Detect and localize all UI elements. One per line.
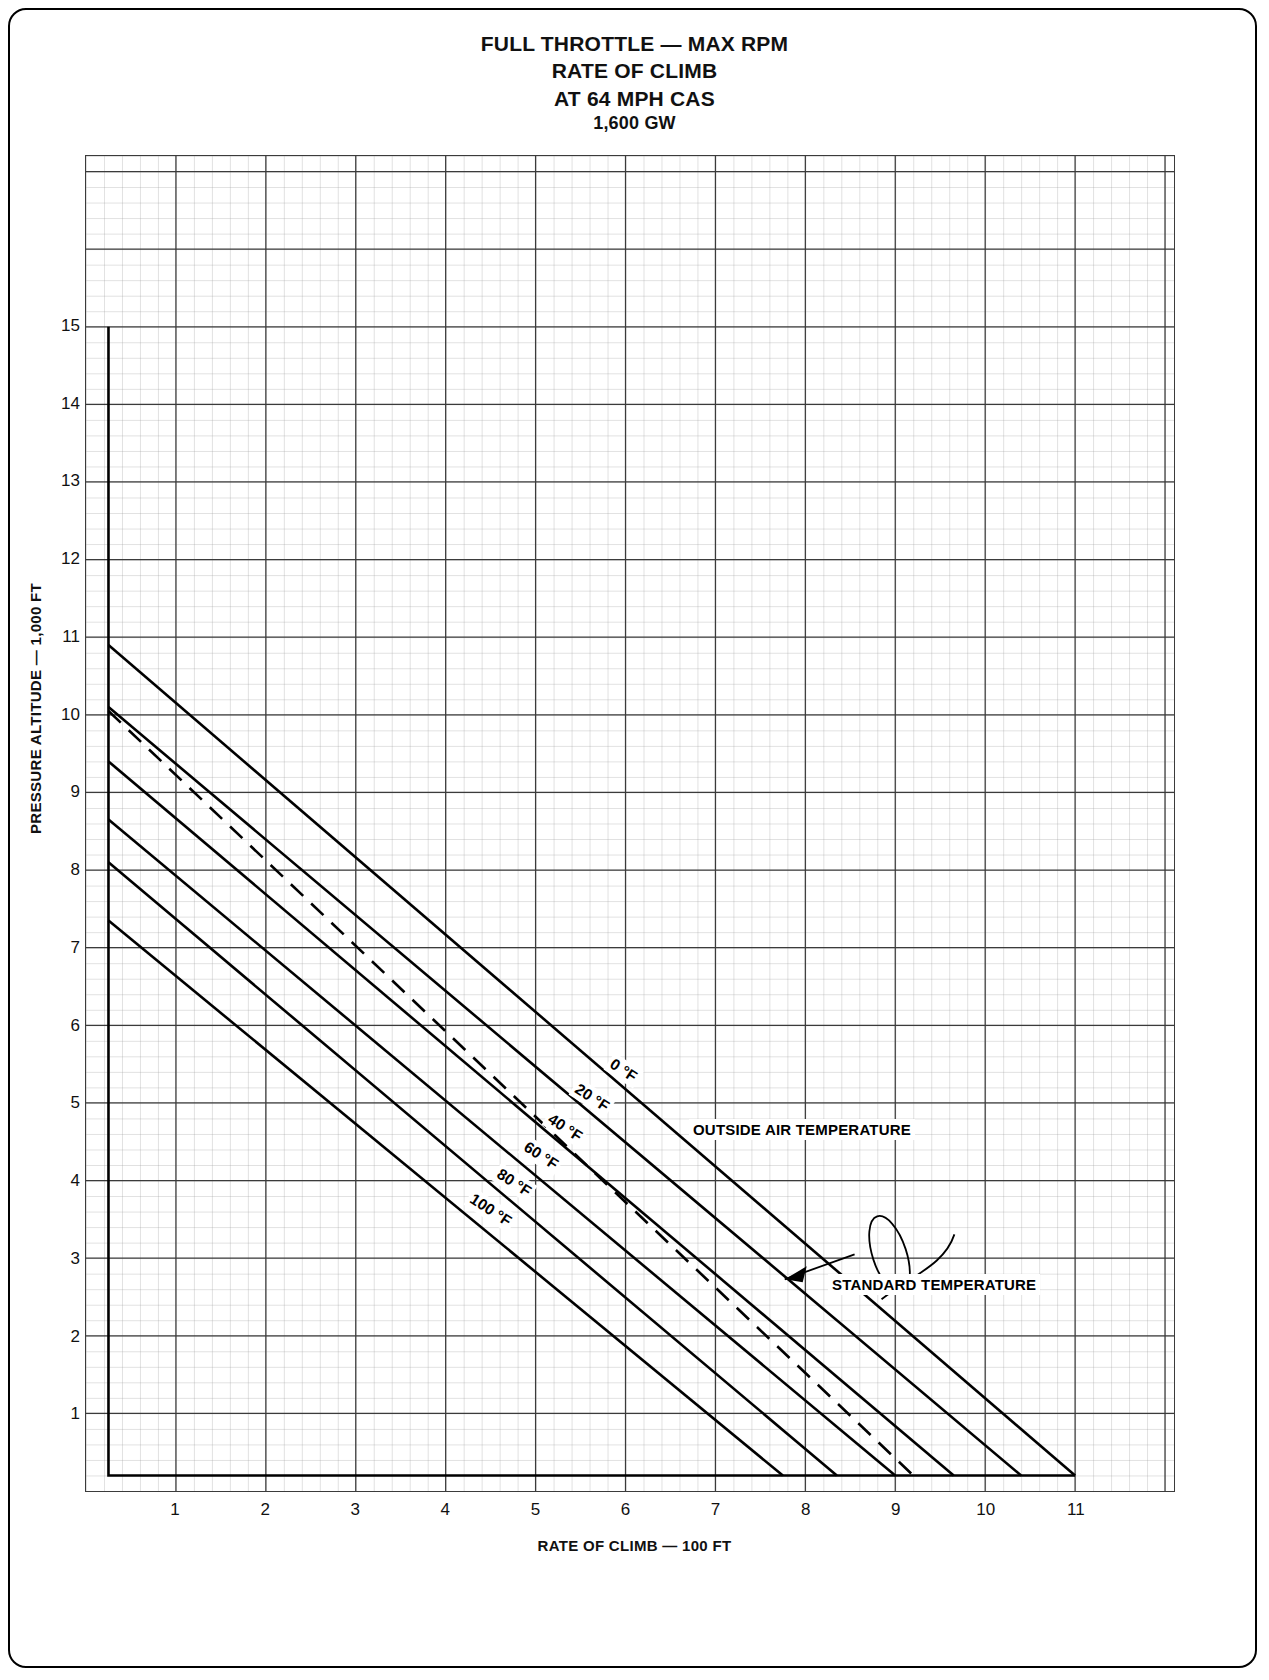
annotation-standard-temperature: STANDARD TEMPERATURE — [828, 1274, 1040, 1295]
y-tick-6: 6 — [46, 1016, 80, 1036]
y-tick-4: 4 — [46, 1171, 80, 1191]
title-line-4-gross-weight: 1,600 GW — [0, 112, 1269, 135]
x-tick-5: 5 — [515, 1500, 555, 1520]
y-tick-2: 2 — [46, 1327, 80, 1347]
x-tick-2: 2 — [245, 1500, 285, 1520]
x-tick-11: 11 — [1056, 1500, 1096, 1520]
x-tick-6: 6 — [605, 1500, 645, 1520]
y-tick-8: 8 — [46, 860, 80, 880]
y-tick-3: 3 — [46, 1249, 80, 1269]
title-line-2: RATE OF CLIMB — [0, 57, 1269, 84]
y-tick-7: 7 — [46, 938, 80, 958]
y-axis-ticks: 123456789101112131415 — [38, 155, 80, 1492]
x-tick-7: 7 — [696, 1500, 736, 1520]
y-tick-12: 12 — [46, 549, 80, 569]
chart-plot-area: 0 °F 20 °F 40 °F 60 °F 80 °F 100 °F OUTS… — [85, 155, 1175, 1492]
y-tick-9: 9 — [46, 782, 80, 802]
y-tick-15: 15 — [46, 316, 80, 336]
y-tick-1: 1 — [46, 1404, 80, 1424]
chart-page: FULL THROTTLE — MAX RPM RATE OF CLIMB AT… — [0, 0, 1269, 1680]
y-axis-title: PRESSURE ALTITUDE — 1,000 FT — [27, 544, 44, 874]
x-tick-9: 9 — [876, 1500, 916, 1520]
x-tick-1: 1 — [155, 1500, 195, 1520]
title-line-3: AT 64 MPH CAS — [0, 85, 1269, 112]
y-tick-5: 5 — [46, 1093, 80, 1113]
x-tick-3: 3 — [335, 1500, 375, 1520]
title-line-1: FULL THROTTLE — MAX RPM — [0, 30, 1269, 57]
y-tick-11: 11 — [46, 627, 80, 647]
y-tick-14: 14 — [46, 394, 80, 414]
y-tick-13: 13 — [46, 471, 80, 491]
annotation-outside-air-temperature: OUTSIDE AIR TEMPERATURE — [689, 1119, 915, 1140]
x-tick-4: 4 — [425, 1500, 465, 1520]
x-tick-8: 8 — [786, 1500, 826, 1520]
x-tick-10: 10 — [966, 1500, 1006, 1520]
chart-title-block: FULL THROTTLE — MAX RPM RATE OF CLIMB AT… — [0, 30, 1269, 135]
x-axis-ticks: 1234567891011 — [85, 1500, 1175, 1530]
x-axis-title: RATE OF CLIMB — 100 FT — [0, 1537, 1269, 1554]
y-tick-10: 10 — [46, 705, 80, 725]
